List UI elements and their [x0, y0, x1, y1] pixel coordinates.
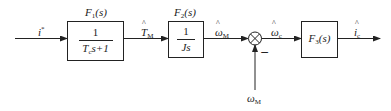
omega-c-est-symbol: ω	[271, 27, 279, 38]
f1-arg: (s)	[95, 6, 107, 18]
omega-m-est-sub: M	[223, 32, 229, 40]
current-est-sub: c	[357, 32, 360, 40]
block-f3: F3(s)	[301, 21, 338, 58]
omega-m-meas-label: ωM	[247, 93, 261, 106]
torque-symbol: T	[141, 27, 147, 38]
torque-sub: M	[147, 32, 153, 40]
omega-c-est-sub: c	[279, 32, 282, 40]
f1-name: F	[85, 6, 92, 18]
omega-m-est-symbol: ω	[215, 27, 223, 38]
torque-est-label: TM	[141, 27, 153, 40]
f1-numerator: 1	[91, 27, 101, 40]
current-est-label: ic	[354, 27, 360, 40]
input-label: i*	[38, 26, 45, 38]
omega-m-meas-symbol: ω	[247, 92, 255, 104]
f1-den-rest: s+1	[92, 42, 109, 54]
summing-junction-icon	[249, 32, 262, 45]
block-f1-label: F1(s)	[85, 7, 107, 20]
block-f1: 1 Tcs+1	[67, 21, 124, 61]
block-f2: 1 Js	[168, 21, 204, 58]
omega-c-est-label: ωc	[271, 27, 282, 40]
f2-arg: (s)	[184, 6, 196, 18]
block-f2-label: F2(s)	[174, 7, 196, 20]
feedback-minus-sign: −	[260, 47, 269, 58]
current-est-symbol: i	[354, 27, 357, 38]
f2-name: F	[174, 6, 181, 18]
omega-m-meas-sub: M	[255, 98, 261, 106]
input-superscript: *	[41, 25, 45, 33]
block-f3-label: F3(s)	[309, 33, 331, 46]
f2-numerator: 1	[181, 26, 191, 39]
f2-denominator: Js	[181, 40, 190, 53]
f1-denominator: Tcs+1	[82, 41, 108, 56]
omega-m-est-label: ωM	[215, 27, 229, 40]
f3-arg: (s)	[319, 32, 331, 44]
